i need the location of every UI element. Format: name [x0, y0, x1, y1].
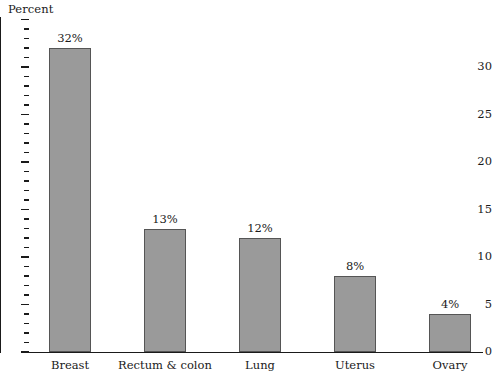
bar — [144, 229, 186, 353]
y-tick-minor — [24, 218, 29, 219]
bar — [429, 314, 471, 352]
bar-chart: Percent 051015202530 32%13%12%8%4% Breas… — [0, 0, 492, 380]
category-label: Uterus — [335, 360, 375, 372]
y-tick-minor — [24, 275, 29, 276]
bar-value-label: 4% — [441, 299, 459, 311]
y-tick-minor — [24, 190, 29, 191]
y-tick-major — [21, 114, 29, 115]
bar — [239, 238, 281, 352]
y-tick-minor — [24, 294, 29, 295]
bar — [49, 48, 91, 352]
y-tick-major — [21, 161, 29, 162]
y-tick-minor — [24, 76, 29, 77]
bar-value-label: 32% — [57, 33, 83, 45]
bar — [334, 276, 376, 352]
y-tick-minor — [24, 123, 29, 124]
y-tick-minor — [24, 28, 29, 29]
bar-value-label: 12% — [247, 223, 273, 235]
y-tick-minor — [24, 38, 29, 39]
y-tick-minor — [24, 104, 29, 105]
y-tick-minor — [24, 228, 29, 229]
y-tick-label: 15 — [473, 204, 492, 216]
y-tick-minor — [24, 180, 29, 181]
y-tick-minor — [24, 95, 29, 96]
category-label: Lung — [245, 360, 275, 372]
y-tick-major — [21, 66, 29, 67]
y-axis-line — [0, 17, 1, 353]
y-tick-label: 20 — [473, 156, 492, 168]
y-tick-label: 25 — [473, 109, 492, 121]
y-tick-minor — [24, 85, 29, 86]
y-tick-label: 5 — [473, 299, 492, 311]
category-label: Ovary — [433, 360, 468, 372]
y-tick-minor — [24, 57, 29, 58]
bar-value-label: 13% — [152, 214, 178, 226]
y-tick-minor — [24, 285, 29, 286]
y-tick-minor — [24, 152, 29, 153]
y-tick-minor — [24, 237, 29, 238]
y-tick-label: 0 — [473, 346, 492, 358]
y-tick-minor — [24, 47, 29, 48]
y-tick-major — [21, 209, 29, 210]
y-tick-label: 10 — [473, 251, 492, 263]
y-tick-minor — [24, 199, 29, 200]
y-tick-major — [21, 19, 29, 20]
y-tick-minor — [24, 323, 29, 324]
y-axis-title: Percent — [8, 2, 54, 16]
y-tick-minor — [24, 266, 29, 267]
y-tick-minor — [24, 332, 29, 333]
y-tick-minor — [24, 171, 29, 172]
y-tick-minor — [24, 342, 29, 343]
bar-value-label: 8% — [346, 261, 364, 273]
y-tick-minor — [24, 313, 29, 314]
category-label: Rectum & colon — [118, 360, 212, 372]
y-tick-major — [21, 256, 29, 257]
y-tick-minor — [24, 133, 29, 134]
y-tick-label: 30 — [473, 61, 492, 73]
y-tick-minor — [24, 142, 29, 143]
y-tick-major — [21, 304, 29, 305]
y-tick-minor — [24, 247, 29, 248]
category-label: Breast — [51, 360, 89, 372]
y-tick-major — [21, 351, 29, 352]
